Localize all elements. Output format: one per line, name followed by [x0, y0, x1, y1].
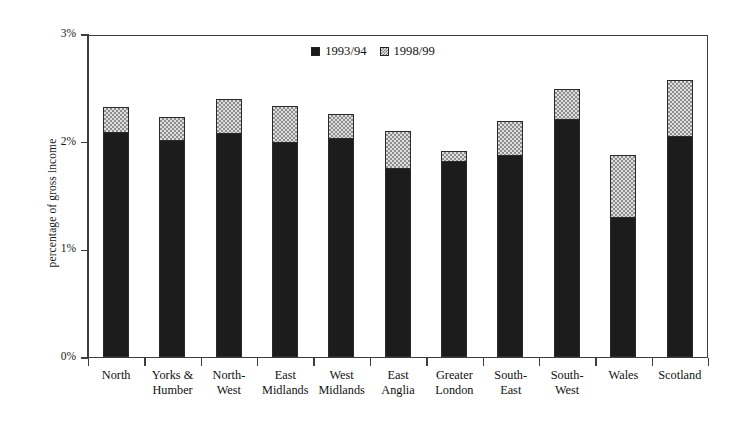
x-category-label: North	[88, 368, 144, 383]
y-axis-title: percentage of gross income	[46, 73, 58, 333]
bar-segment-1998-99[interactable]	[272, 106, 298, 143]
bar-chart: percentage of gross income 0%1%2%3% Nort…	[0, 0, 746, 425]
plot-area	[88, 35, 708, 358]
bar-group[interactable]	[554, 34, 580, 357]
bar-group[interactable]	[216, 34, 242, 357]
bar-segment-1998-99[interactable]	[103, 107, 129, 133]
bar-group[interactable]	[610, 34, 636, 357]
bar-segment-1993-94[interactable]	[554, 119, 580, 357]
x-tick-mark	[539, 358, 540, 366]
x-tick-mark	[652, 358, 653, 366]
bar-segment-1993-94[interactable]	[328, 138, 354, 357]
y-tick-label: 2%	[42, 135, 76, 147]
x-tick-mark	[313, 358, 314, 366]
x-category-label: GreaterLondon	[426, 368, 482, 398]
bar-segment-1993-94[interactable]	[497, 155, 523, 357]
x-category-label: Yorks &Humber	[144, 368, 200, 398]
x-category-label: WestMidlands	[313, 368, 369, 398]
y-tick-label: 1%	[42, 242, 76, 254]
x-category-label: Scotland	[652, 368, 708, 383]
bar-group[interactable]	[385, 34, 411, 357]
x-category-label: South-East	[483, 368, 539, 398]
y-tick-label: 3%	[42, 27, 76, 39]
bar-segment-1993-94[interactable]	[441, 161, 467, 357]
bar-group[interactable]	[159, 34, 185, 357]
bar-segment-1993-94[interactable]	[667, 136, 693, 357]
bar-segment-1998-99[interactable]	[216, 99, 242, 134]
bar-group[interactable]	[328, 34, 354, 357]
bar-group[interactable]	[667, 34, 693, 357]
bar-segment-1998-99[interactable]	[328, 114, 354, 140]
x-tick-mark	[370, 358, 371, 366]
bar-segment-1998-99[interactable]	[554, 89, 580, 120]
x-tick-mark	[708, 358, 709, 366]
bar-segment-1993-94[interactable]	[610, 217, 636, 357]
x-tick-mark	[483, 358, 484, 366]
bar-segment-1998-99[interactable]	[159, 117, 185, 141]
x-category-label: EastAnglia	[370, 368, 426, 398]
x-category-label: North-West	[201, 368, 257, 398]
x-tick-mark	[426, 358, 427, 366]
x-category-label: South-West	[539, 368, 595, 398]
x-tick-mark	[201, 358, 202, 366]
bar-segment-1998-99[interactable]	[497, 121, 523, 155]
bar-segment-1993-94[interactable]	[385, 168, 411, 357]
bar-segment-1998-99[interactable]	[441, 151, 467, 162]
bar-group[interactable]	[441, 34, 467, 357]
bar-segment-1993-94[interactable]	[272, 142, 298, 357]
bar-segment-1998-99[interactable]	[610, 155, 636, 218]
x-category-label: EastMidlands	[257, 368, 313, 398]
x-tick-mark	[257, 358, 258, 366]
bar-segment-1993-94[interactable]	[159, 140, 185, 357]
bar-group[interactable]	[103, 34, 129, 357]
bar-segment-1993-94[interactable]	[103, 132, 129, 357]
x-tick-mark	[144, 358, 145, 366]
y-tick-label: 0%	[42, 350, 76, 362]
bar-segment-1998-99[interactable]	[385, 131, 411, 169]
x-tick-mark	[595, 358, 596, 366]
x-tick-mark	[88, 358, 89, 366]
bar-group[interactable]	[272, 34, 298, 357]
bar-segment-1993-94[interactable]	[216, 133, 242, 357]
bar-group[interactable]	[497, 34, 523, 357]
bar-segment-1998-99[interactable]	[667, 80, 693, 137]
x-category-label: Wales	[595, 368, 651, 383]
